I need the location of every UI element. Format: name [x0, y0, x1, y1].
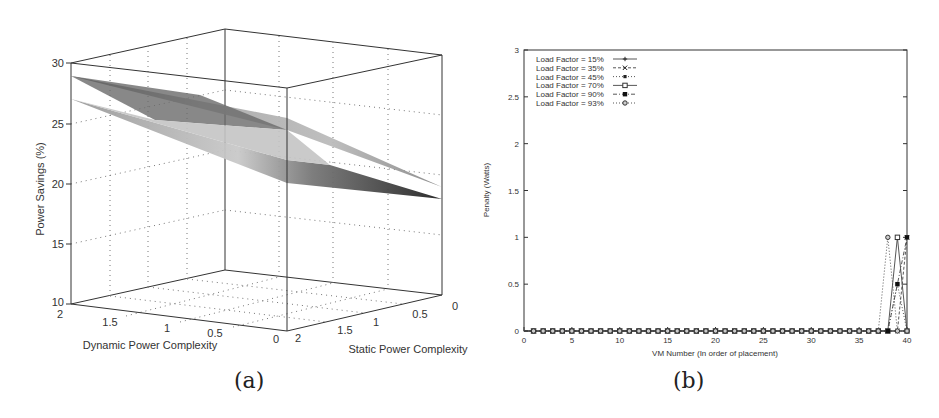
x-tick: 2: [57, 308, 63, 320]
legend-item-label: Load Factor = 45%: [536, 73, 604, 82]
y-axis: 2 1.5 1 0.5 0 Static Power Complexity: [295, 300, 468, 355]
legend-item-label: Load Factor = 93%: [536, 99, 604, 108]
x-tick: 20: [711, 336, 720, 345]
series-line: [524, 235, 909, 333]
x-axis: 2 1.5 1 0.5 0 Dynamic Power Complexity: [57, 308, 279, 351]
x-tick: 0.5: [207, 327, 222, 339]
x-tick: 5: [570, 336, 575, 345]
x-tick: 40: [903, 336, 912, 345]
y-axis-label: Penalty (Watts): [482, 162, 491, 217]
y-tick: 1: [515, 233, 520, 242]
chart-b-panel: 00.511.522.53 0510152025303540 Penalty (…: [470, 0, 939, 418]
y-tick: 1: [373, 316, 379, 328]
x-tick: 10: [615, 336, 624, 345]
z-tick: 10: [52, 296, 64, 308]
x-tick: 30: [807, 336, 816, 345]
y-tick: 0: [452, 300, 458, 312]
z-tick: 20: [52, 178, 64, 190]
x-tick: 35: [855, 336, 864, 345]
y-tick: 2.5: [508, 93, 520, 102]
x-axis-label: Dynamic Power Complexity: [83, 339, 218, 351]
data-series: [524, 235, 909, 333]
chart-b-plot: 00.511.522.53 0510152025303540 Penalty (…: [470, 0, 939, 418]
series-line: [524, 235, 909, 333]
x-axis-label: VM Number (In order of placement): [652, 349, 778, 358]
y-tick: 2: [295, 332, 301, 344]
legend-item-label: Load Factor = 35%: [536, 64, 604, 73]
x-tick: 0: [522, 336, 527, 345]
legend-item-label: Load Factor = 90%: [536, 90, 604, 99]
y-tick: 0.5: [412, 308, 427, 320]
y-tick: 1.5: [337, 324, 352, 336]
y-tick: 1.5: [508, 187, 520, 196]
z-axis: 30 25 20 15 10 Power Savings (%): [34, 57, 71, 308]
caption-a: (a): [234, 368, 264, 393]
y-tick: 0.5: [508, 280, 520, 289]
x-tick: 1: [164, 322, 170, 334]
y-axis-label: Static Power Complexity: [348, 343, 468, 355]
caption-b: (b): [673, 368, 704, 393]
y-tick: 2: [515, 140, 520, 149]
grid-lines: [71, 36, 442, 327]
chart-a-panel: 30 25 20 15 10 Power Savings (%) 2 1.5 1…: [0, 0, 470, 418]
y-tick: 0: [515, 327, 520, 336]
z-tick: 30: [52, 57, 64, 69]
x-tick: 25: [759, 336, 768, 345]
legend-item-label: Load Factor = 15%: [536, 55, 604, 64]
legend-item-label: Load Factor = 70%: [536, 81, 604, 90]
z-axis-label: Power Savings (%): [34, 142, 46, 236]
series-line: [524, 283, 909, 333]
z-tick: 25: [52, 118, 64, 130]
series-line: [524, 235, 909, 333]
legend: Load Factor = 15%Load Factor = 35%Load F…: [536, 55, 637, 108]
x-tick: 15: [663, 336, 672, 345]
y-tick: 3: [515, 46, 520, 55]
x-tick: 0: [273, 333, 279, 345]
x-tick: 1.5: [102, 316, 117, 328]
series-line: [524, 235, 909, 333]
chart-a-plot: 30 25 20 15 10 Power Savings (%) 2 1.5 1…: [0, 0, 470, 418]
z-tick: 15: [52, 238, 64, 250]
